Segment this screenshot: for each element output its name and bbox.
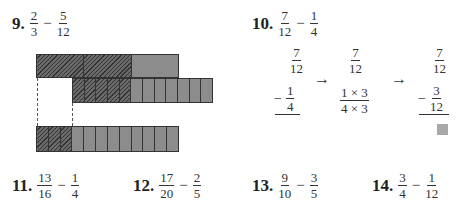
bar-cell-hatched xyxy=(61,127,73,151)
problem-number: 14. xyxy=(372,176,393,196)
bar-cell xyxy=(72,127,84,151)
bar-cell xyxy=(96,127,108,151)
bar-cell xyxy=(143,127,155,151)
problem-number: 9. xyxy=(12,14,25,34)
problem-14: 14. 3 4 − 1 12 xyxy=(372,171,438,200)
bar-cell xyxy=(132,127,144,151)
fraction: 7 12 xyxy=(278,9,291,38)
work-step-1-bottom: − 1 4 xyxy=(274,84,294,113)
fraction-bar-thirds xyxy=(36,54,179,78)
minus-sign: − xyxy=(43,15,51,32)
bar-cell xyxy=(201,79,212,102)
bar-cell-hatched xyxy=(37,127,49,151)
bar-cell xyxy=(178,79,190,102)
minus-sign: − xyxy=(412,177,420,194)
bar-cell xyxy=(120,127,132,151)
problem-13: 13. 9 10 − 3 5 xyxy=(252,171,318,200)
fraction: 9 10 xyxy=(278,171,291,200)
problem-number: 10. xyxy=(252,14,273,34)
bar-cell xyxy=(132,55,178,77)
problem-9: 9. 2 3 − 5 12 xyxy=(12,9,70,38)
fraction-bar-twelfths-offset xyxy=(72,78,213,103)
dashed-guide-line xyxy=(37,78,38,126)
bar-cell xyxy=(190,79,202,102)
problem-10: 10. 7 12 − 1 4 xyxy=(252,9,318,38)
fraction: 2 5 xyxy=(193,171,202,200)
bar-cell-hatched xyxy=(96,79,108,102)
fraction: 7 12 xyxy=(290,46,303,75)
work-step-3-top: 7 12 xyxy=(433,46,446,75)
minus-sign: − xyxy=(179,177,187,194)
minus-sign: − xyxy=(296,177,304,194)
bar-cell-hatched xyxy=(120,79,132,102)
problem-number: 13. xyxy=(252,176,273,196)
problem-number: 12. xyxy=(133,176,154,196)
sum-line xyxy=(275,114,300,115)
bar-cell-hatched xyxy=(49,127,61,151)
fraction: 5 12 xyxy=(57,9,70,38)
fraction: 1 4 xyxy=(286,84,295,113)
bar-cell-hatched xyxy=(73,79,85,102)
bar-cell-hatched xyxy=(84,55,131,77)
fraction-bar-result xyxy=(36,126,179,152)
work-step-2-bottom: 1 × 3 4 × 3 xyxy=(340,86,369,115)
fraction: 3 12 xyxy=(430,84,443,113)
bar-cell xyxy=(131,79,143,102)
sum-line xyxy=(419,114,449,115)
fraction: 1 12 xyxy=(425,171,438,200)
minus-sign: − xyxy=(274,91,282,107)
fraction: 1 4 xyxy=(310,9,319,38)
fraction: 1 4 xyxy=(71,171,80,200)
fraction: 1 × 3 4 × 3 xyxy=(340,86,369,115)
bar-cell xyxy=(84,127,96,151)
answer-placeholder-box xyxy=(437,124,448,135)
bar-cell xyxy=(155,127,167,151)
fraction: 2 3 xyxy=(30,9,39,38)
fraction: 17 20 xyxy=(159,171,174,200)
problem-number: 11. xyxy=(12,176,32,196)
minus-sign: − xyxy=(296,15,304,32)
bar-cell xyxy=(155,79,167,102)
minus-sign: − xyxy=(418,91,426,107)
minus-sign: − xyxy=(57,177,65,194)
bar-cell xyxy=(108,127,120,151)
work-step-3-bottom: − 3 12 xyxy=(418,84,443,113)
problem-12: 12. 17 20 − 2 5 xyxy=(133,171,201,200)
bar-cell xyxy=(143,79,155,102)
bar-cell-hatched xyxy=(108,79,120,102)
arrow-right-icon: → xyxy=(314,70,330,88)
bar-cell-hatched xyxy=(37,55,84,77)
arrow-right-icon: → xyxy=(391,70,407,88)
fraction: 3 5 xyxy=(310,171,319,200)
fraction: 3 4 xyxy=(398,171,407,200)
fraction: 7 12 xyxy=(349,46,362,75)
bar-cell xyxy=(166,79,178,102)
work-step-2-top: 7 12 xyxy=(349,46,362,75)
work-step-1-top: 7 12 xyxy=(290,46,303,75)
fraction: 7 12 xyxy=(433,46,446,75)
fraction: 13 16 xyxy=(37,171,52,200)
problem-11: 11. 13 16 − 1 4 xyxy=(12,171,79,200)
bar-cell-hatched xyxy=(85,79,97,102)
bar-cell xyxy=(167,127,178,151)
dashed-guide-line xyxy=(72,103,73,126)
